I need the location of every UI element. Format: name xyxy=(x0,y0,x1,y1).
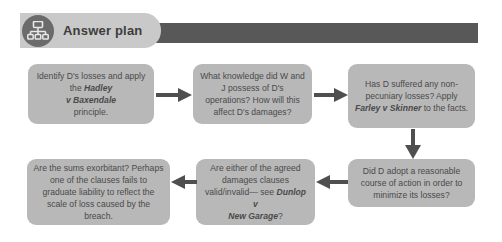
node-text: Did D adopt a reasonable course of actio… xyxy=(354,165,469,202)
arrow-shaft xyxy=(156,93,180,97)
node-text: What knowledge did W and J possess of D'… xyxy=(199,70,306,119)
arrow-head-down-icon xyxy=(405,145,421,159)
arrow-node3-to-node4 xyxy=(405,129,421,159)
header-pill: Answer plan xyxy=(20,13,161,48)
node-text: Are either of the agreed damages clauses… xyxy=(202,162,309,223)
non-pecuniary-losses-node: Has D suffered any non-pecuniary losses?… xyxy=(348,64,475,128)
arrow-head-left-icon xyxy=(171,175,185,189)
arrow-head-right-icon xyxy=(178,88,192,102)
org-chart-icon xyxy=(22,15,54,47)
header-band xyxy=(150,23,478,43)
agreed-damages-clauses-node: Are either of the agreed damages clauses… xyxy=(196,159,315,225)
mitigation-node: Did D adopt a reasonable course of actio… xyxy=(348,159,475,207)
node-text: Are the sums exorbitant? Perhaps one of … xyxy=(33,162,164,223)
identify-losses-node: Identify D's losses and apply the Hadley… xyxy=(28,64,154,124)
arrow-node4-to-node5 xyxy=(316,175,348,189)
arrow-head-left-icon xyxy=(316,175,330,189)
page-title: Answer plan xyxy=(63,23,143,38)
arrow-shaft xyxy=(314,93,336,97)
node-text: Has D suffered any non-pecuniary losses?… xyxy=(354,78,469,115)
arrow-shaft xyxy=(328,180,348,184)
knowledge-of-operations-node: What knowledge did W and J possess of D'… xyxy=(193,64,312,124)
exorbitant-sums-node: Are the sums exorbitant? Perhaps one of … xyxy=(27,159,170,225)
answer-plan-figure: Answer plan Identify D's losses and appl… xyxy=(0,0,502,242)
node-text: Identify D's losses and apply the Hadley… xyxy=(34,70,148,119)
arrow-head-right-icon xyxy=(334,88,348,102)
arrow-shaft xyxy=(183,180,197,184)
arrow-node5-to-node6 xyxy=(171,175,197,189)
arrow-node2-to-node3 xyxy=(314,88,348,102)
arrow-node1-to-node2 xyxy=(156,88,192,102)
